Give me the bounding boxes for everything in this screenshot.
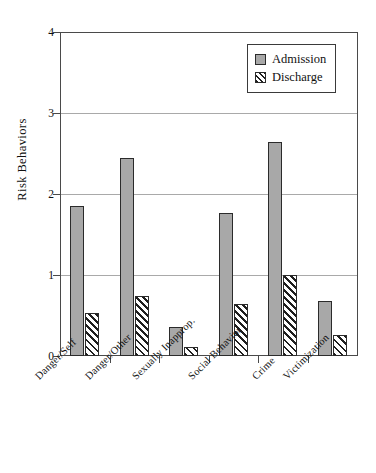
hatched-swatch-icon xyxy=(255,72,266,83)
legend-item-discharge[interactable]: Discharge xyxy=(255,68,326,86)
y-tick-label-1: 1 xyxy=(14,270,54,282)
bar-group-danger-self xyxy=(60,32,110,356)
x-axis-label-crime: Crime xyxy=(250,355,277,382)
y-axis-title: Risk Behaviors xyxy=(15,80,30,240)
bar-admission-crime[interactable] xyxy=(268,142,282,356)
legend-item-admission[interactable]: Admission xyxy=(255,50,326,68)
bar-group-sexually-inapprop xyxy=(159,32,209,356)
y-tick-label-3: 3 xyxy=(14,108,54,120)
bar-discharge-victimization[interactable] xyxy=(333,335,347,356)
y-tick-label-2: 2 xyxy=(14,189,54,201)
solid-gray-swatch-icon xyxy=(255,54,266,65)
bar-admission-danger-other[interactable] xyxy=(120,158,134,356)
bar-discharge-crime[interactable] xyxy=(283,275,297,356)
bar-discharge-sexually-inapprop[interactable] xyxy=(184,347,198,356)
bar-group-danger-other xyxy=(110,32,160,356)
y-tick-mark-1 xyxy=(53,275,60,276)
risk-behaviors-bar-chart: Risk Behaviors 4 3 2 1 0 xyxy=(0,0,376,473)
bar-discharge-danger-other[interactable] xyxy=(135,296,149,356)
y-tick-mark-2 xyxy=(53,194,60,195)
legend: Admission Discharge xyxy=(247,44,336,93)
bar-discharge-danger-self[interactable] xyxy=(85,313,99,356)
y-tick-mark-4 xyxy=(53,32,60,33)
y-tick-mark-3 xyxy=(53,113,60,114)
bar-admission-danger-self[interactable] xyxy=(70,206,84,356)
x-tick-4 xyxy=(258,356,259,363)
y-tick-label-4: 4 xyxy=(14,27,54,39)
legend-label-admission: Admission xyxy=(272,53,326,66)
legend-label-discharge: Discharge xyxy=(272,71,322,84)
